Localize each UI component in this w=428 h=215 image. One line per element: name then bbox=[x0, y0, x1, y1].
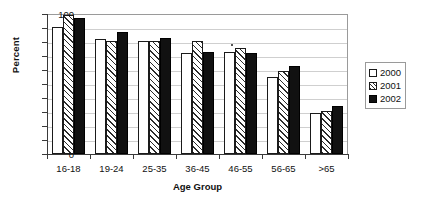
bar-2002-56-65 bbox=[289, 66, 300, 154]
x-tick-mark bbox=[133, 154, 134, 159]
y-tick-mark bbox=[42, 70, 47, 71]
legend: 200020012002 bbox=[365, 62, 406, 109]
bar-2001-19-24 bbox=[106, 41, 117, 154]
x-tick-mark bbox=[90, 154, 91, 159]
bar-group bbox=[52, 14, 85, 154]
bar-2001-46-55 bbox=[235, 48, 246, 154]
black-square-icon bbox=[369, 95, 377, 103]
x-tick-mark bbox=[305, 154, 306, 159]
y-tick-mark bbox=[42, 56, 47, 57]
x-tick-label: >65 bbox=[299, 163, 355, 174]
x-axis-line bbox=[47, 154, 348, 155]
bar-group bbox=[181, 14, 214, 154]
y-tick-mark bbox=[42, 84, 47, 85]
bar-2001-16-18 bbox=[63, 15, 74, 154]
legend-item-2000: 2000 bbox=[369, 66, 401, 79]
y-tick-mark bbox=[42, 42, 47, 43]
hatched-square-icon bbox=[369, 82, 377, 90]
y-axis-title: Percent bbox=[7, 20, 25, 90]
bar-2001-56-65 bbox=[278, 71, 289, 154]
x-tick-mark bbox=[176, 154, 177, 159]
bar-2000-56-65 bbox=[267, 77, 278, 154]
bar-group bbox=[267, 14, 300, 154]
legend-label: 2002 bbox=[380, 94, 401, 104]
y-tick-mark bbox=[42, 98, 47, 99]
scan-artifact bbox=[231, 44, 233, 46]
legend-label: 2001 bbox=[380, 81, 401, 91]
bar-2000-25-35 bbox=[138, 41, 149, 154]
legend-item-2001: 2001 bbox=[369, 79, 401, 92]
x-axis-title: Age Group bbox=[47, 181, 348, 192]
y-tick-mark bbox=[42, 112, 47, 113]
bar-2001->65 bbox=[321, 111, 332, 154]
bar-2002-16-18 bbox=[74, 18, 85, 154]
y-tick-mark bbox=[42, 14, 47, 15]
y-axis-line bbox=[47, 14, 48, 154]
bar-2000-46-55 bbox=[224, 52, 235, 154]
bar-group bbox=[138, 14, 171, 154]
bar-2000-16-18 bbox=[52, 27, 63, 154]
bar-chart: Percent 0102030405060708090100 16-1819-2… bbox=[0, 0, 428, 215]
y-tick-mark bbox=[42, 140, 47, 141]
x-tick-mark bbox=[219, 154, 220, 159]
bar-2002-19-24 bbox=[117, 32, 128, 154]
x-tick-mark bbox=[348, 154, 349, 159]
bar-group bbox=[310, 14, 343, 154]
bar-2001-36-45 bbox=[192, 41, 203, 154]
bar-group bbox=[224, 14, 257, 154]
bar-2002-36-45 bbox=[203, 52, 214, 154]
bar-2002-25-35 bbox=[160, 38, 171, 154]
bar-2002->65 bbox=[332, 106, 343, 154]
bar-2002-46-55 bbox=[246, 53, 257, 154]
legend-item-2002: 2002 bbox=[369, 92, 401, 105]
bar-2001-25-35 bbox=[149, 41, 160, 154]
y-tick-mark bbox=[42, 28, 47, 29]
bar-2000-19-24 bbox=[95, 39, 106, 154]
bar-group bbox=[95, 14, 128, 154]
bar-2000-36-45 bbox=[181, 53, 192, 154]
x-tick-mark bbox=[47, 154, 48, 159]
bar-2000->65 bbox=[310, 113, 321, 154]
legend-label: 2000 bbox=[380, 68, 401, 78]
y-tick-mark bbox=[42, 126, 47, 127]
white-square-icon bbox=[369, 69, 377, 77]
x-tick-mark bbox=[262, 154, 263, 159]
